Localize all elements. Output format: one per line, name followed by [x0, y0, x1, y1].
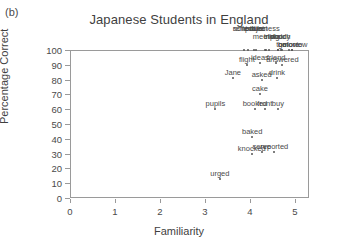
scatter-point	[281, 64, 283, 66]
x-tick-label: 0	[67, 206, 72, 217]
scatter-point	[277, 108, 279, 110]
figure-panel: (b) Japanese Students in England 0102030…	[0, 0, 358, 245]
x-tick-label: 1	[112, 206, 117, 217]
scatter-point	[288, 49, 290, 51]
x-tick-label: 2	[157, 206, 162, 217]
point-label: cake	[252, 85, 268, 93]
scatter-point	[243, 49, 245, 51]
x-axis-title: Familiarity	[0, 225, 358, 237]
scatter-point	[261, 79, 263, 81]
scatter-point	[264, 108, 266, 110]
scatter-point	[253, 49, 255, 51]
scatter-point	[259, 62, 261, 64]
point-label: flight	[239, 56, 255, 64]
point-label: baked	[242, 128, 262, 136]
point-label: answered	[266, 56, 299, 64]
scatter-point	[264, 49, 266, 51]
point-label: knocked	[238, 145, 266, 153]
x-tick-mark	[70, 199, 71, 203]
scatter-point	[232, 77, 234, 79]
x-tick-mark	[115, 199, 116, 203]
scatter-point	[268, 49, 270, 51]
point-label: before	[278, 41, 299, 49]
scatter-point	[273, 151, 275, 153]
scatter-point	[281, 49, 283, 51]
scatter-point	[251, 136, 253, 138]
x-tick-mark	[295, 199, 296, 203]
y-axis-title: Percentage Correct	[0, 29, 10, 124]
x-tick-label: 4	[247, 206, 252, 217]
scatter-point	[254, 108, 256, 110]
scatter-point	[214, 108, 216, 110]
x-tick-mark	[160, 199, 161, 203]
x-tick-label: 3	[202, 206, 207, 217]
x-tick-mark	[250, 199, 251, 203]
scatter-point	[277, 49, 279, 51]
x-tick-label: 5	[292, 206, 297, 217]
scatter-point	[251, 153, 253, 155]
scatter-point	[276, 77, 278, 79]
point-label: asked	[252, 71, 272, 79]
point-label: pupils	[206, 100, 226, 108]
point-label: urged	[210, 170, 229, 178]
scatter-point	[247, 49, 249, 51]
scatter-point	[280, 49, 282, 51]
scatter-point	[255, 49, 257, 51]
point-label: Jane	[225, 69, 241, 77]
scatter-point	[259, 93, 261, 95]
point-label: buy	[272, 100, 284, 108]
scatter-point	[219, 178, 221, 180]
point-label: booked	[243, 100, 268, 108]
x-tick-mark	[205, 199, 206, 203]
scatter-point	[291, 49, 293, 51]
scatter-point	[246, 64, 248, 66]
